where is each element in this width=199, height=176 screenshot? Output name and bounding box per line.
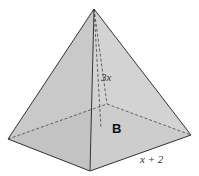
base-label: B: [112, 121, 121, 136]
left-face: [8, 9, 94, 171]
height-label: 3x: [100, 71, 112, 83]
edge-label: x + 2: [139, 153, 164, 165]
pyramid-diagram: 3x B x + 2: [0, 0, 199, 176]
